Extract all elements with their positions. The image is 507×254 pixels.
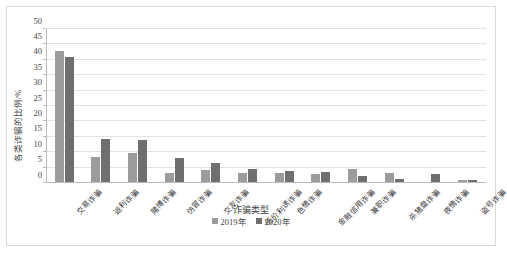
y-axis-tick-label: 0 bbox=[38, 170, 42, 179]
bar-group bbox=[83, 29, 120, 183]
bar-group bbox=[46, 29, 83, 183]
legend-item[interactable]: 2020年 bbox=[256, 215, 291, 227]
bar[interactable] bbox=[101, 139, 110, 183]
y-axis-tick-label: 35 bbox=[34, 62, 43, 71]
bar[interactable] bbox=[128, 153, 137, 183]
plot-area: 05101520253035404550 交易诈骗返利诈骗賭博诈骗仿冒诈骗交友诈… bbox=[46, 29, 486, 183]
bar[interactable] bbox=[248, 169, 257, 183]
y-axis-tick-label: 45 bbox=[34, 32, 43, 41]
bar-group bbox=[156, 29, 193, 183]
bar-group bbox=[229, 29, 266, 183]
y-axis-tick-label: 5 bbox=[38, 155, 42, 164]
legend-item[interactable]: 2019年 bbox=[212, 215, 247, 227]
bar[interactable] bbox=[348, 169, 357, 183]
y-axis-tick-label: 30 bbox=[34, 78, 43, 87]
bar[interactable] bbox=[211, 163, 220, 183]
y-axis-tick-label: 40 bbox=[34, 47, 43, 56]
bar-group bbox=[449, 29, 486, 183]
legend-swatch-icon bbox=[212, 218, 218, 224]
bar[interactable] bbox=[138, 140, 147, 183]
bar[interactable] bbox=[55, 51, 64, 183]
chart-frame: 各类诈骗的比例/% 05101520253035404550 交易诈骗返利诈骗賭… bbox=[6, 6, 496, 246]
legend-label: 2019年 bbox=[221, 215, 247, 227]
bar-group bbox=[119, 29, 156, 183]
legend-swatch-icon bbox=[256, 218, 262, 224]
y-axis-tick-label: 15 bbox=[34, 124, 43, 133]
bar-group bbox=[413, 29, 450, 183]
y-axis-title: 各类诈骗的比例/% bbox=[11, 51, 23, 201]
y-axis-tick-label: 10 bbox=[34, 139, 43, 148]
bar-group bbox=[303, 29, 340, 183]
bar-group bbox=[339, 29, 376, 183]
bar-group bbox=[266, 29, 303, 183]
legend-label: 2020年 bbox=[265, 215, 291, 227]
y-axis-tick-label: 50 bbox=[34, 16, 43, 25]
bar[interactable] bbox=[91, 157, 100, 183]
bar-group bbox=[193, 29, 230, 183]
y-axis-tick-label: 20 bbox=[34, 109, 43, 118]
bar[interactable] bbox=[175, 158, 184, 183]
bar[interactable] bbox=[65, 57, 74, 183]
bar-group bbox=[376, 29, 413, 183]
x-axis-line bbox=[46, 182, 486, 183]
chart-legend: 2019年2020年 bbox=[7, 215, 495, 227]
y-axis-tick-label: 25 bbox=[34, 93, 43, 102]
